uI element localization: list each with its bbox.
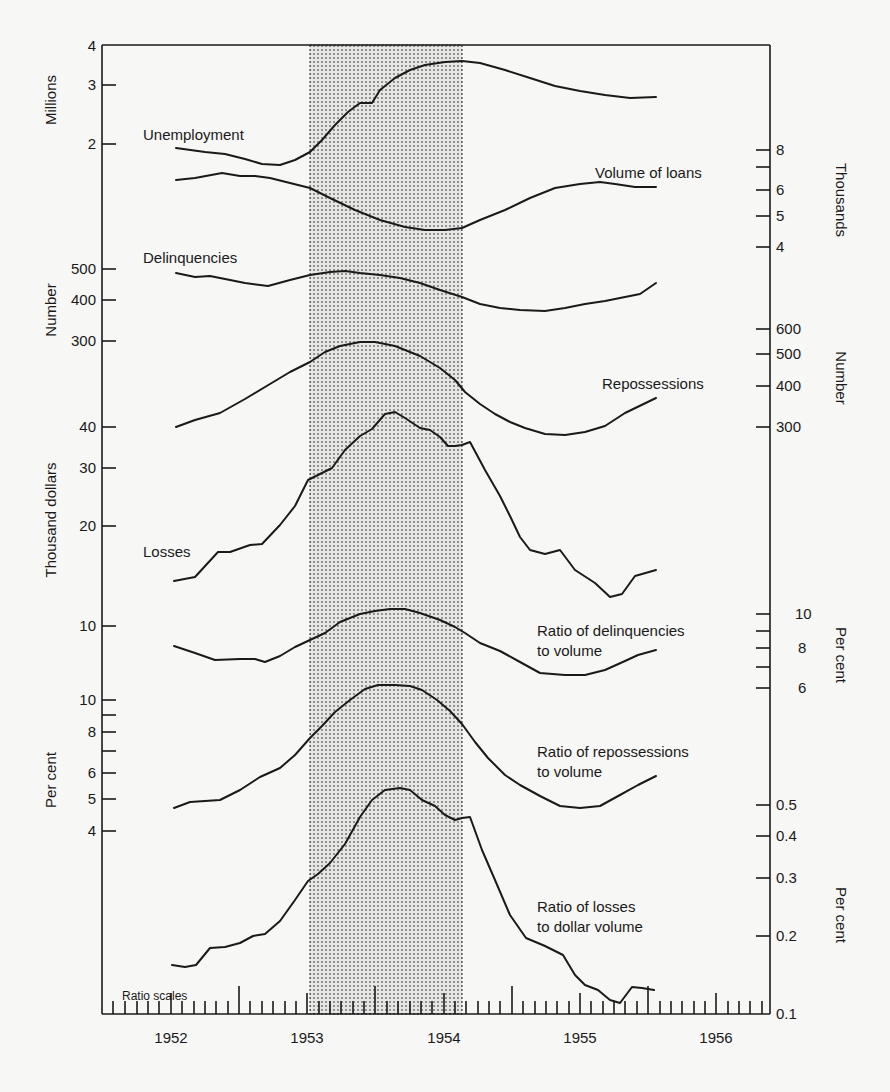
x-label-1953: 1953 [290,1029,323,1046]
label-ratio-repossessions-line2: to volume [537,763,602,780]
label-ratio-losses-line1: Ratio of losses [537,898,635,915]
left-tick-m3: 3 [88,76,96,93]
left-tick-p10: 10 [79,691,96,708]
label-losses: Losses [143,543,191,560]
left-unit-per-cent: Per cent [42,751,59,808]
right-tick-t8: 8 [776,141,784,158]
right-tick-p6: 6 [798,679,806,696]
x-label-1955: 1955 [563,1029,596,1046]
label-ratio-repossessions-line1: Ratio of repossessions [537,743,689,760]
left-tick-d30: 30 [79,459,96,476]
label-delinquencies: Delinquencies [143,249,237,266]
right-axis-ticks [756,150,770,936]
x-label-1954: 1954 [427,1029,460,1046]
left-tick-n400: 400 [71,291,96,308]
left-tick-d40: 40 [79,418,96,435]
right-tick-p10: 10 [795,605,812,622]
left-tick-d20: 20 [79,517,96,534]
left-axis-labels: 4 3 2 500 400 300 40 30 20 10 10 8 6 5 4 [71,37,96,839]
left-tick-p5: 5 [88,790,96,807]
label-ratio-delinquencies-line2: to volume [537,642,602,659]
right-tick-p8: 8 [798,639,806,656]
label-repossessions: Repossessions [602,375,704,392]
left-tick-n300: 300 [71,332,96,349]
x-label-1952: 1952 [154,1029,187,1046]
left-axis-units: Millions Number Thousand dollars Per cen… [42,75,59,808]
right-tick-q05: 0.5 [776,796,797,813]
chart-canvas: 1952 1953 1954 1955 1956 4 3 2 500 400 3… [0,0,890,1092]
left-unit-number: Number [42,283,59,336]
left-tick-d10: 10 [79,617,96,634]
right-tick-q03: 0.3 [776,869,797,886]
label-volume-of-loans: Volume of loans [595,164,702,181]
right-tick-n400: 400 [776,377,801,394]
right-unit-thousands: Thousands [833,163,850,237]
label-ratio-losses-line2: to dollar volume [537,918,643,935]
left-tick-n500: 500 [71,260,96,277]
x-axis-labels: 1952 1953 1954 1955 1956 [154,1029,732,1046]
right-tick-n300: 300 [776,418,801,435]
right-tick-n500: 500 [776,345,801,362]
left-tick-p4: 4 [88,822,96,839]
right-unit-per-cent-1: Per cent [833,627,850,684]
right-tick-q01: 0.1 [776,1005,797,1022]
left-tick-p8: 8 [88,723,96,740]
right-axis-units: Thousands Number Per cent Per cent [833,163,850,944]
left-tick-m2: 2 [88,135,96,152]
x-label-1956: 1956 [699,1029,732,1046]
right-tick-t6: 6 [776,181,784,198]
left-axis-ticks [102,85,116,831]
right-tick-n600: 600 [776,320,801,337]
label-unemployment: Unemployment [143,126,245,143]
left-unit-millions: Millions [42,75,59,125]
right-axis-labels: 8 6 5 4 600 500 400 300 10 8 6 0.5 0.4 0… [776,141,812,1022]
left-tick-m4: 4 [88,37,96,54]
left-unit-thousand-dollars: Thousand dollars [42,462,59,577]
right-unit-per-cent-2: Per cent [833,887,850,944]
label-ratio-delinquencies-line1: Ratio of delinquencies [537,622,685,639]
right-tick-t4: 4 [776,238,784,255]
ratio-scales-note: Ratio scales [122,989,187,1003]
right-unit-number: Number [833,351,850,404]
right-tick-t5: 5 [776,207,784,224]
recession-shaded-band [310,45,462,1014]
right-tick-q04: 0.4 [776,827,797,844]
left-tick-p6: 6 [88,764,96,781]
right-tick-q02: 0.2 [776,927,797,944]
